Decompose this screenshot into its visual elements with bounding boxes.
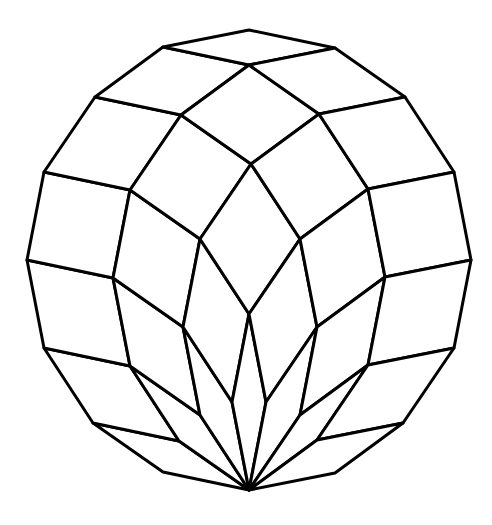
- rhombus-tile: [368, 172, 471, 277]
- rhombus-tiles: [27, 30, 471, 490]
- rhombic-tiling-diagram: [0, 0, 492, 525]
